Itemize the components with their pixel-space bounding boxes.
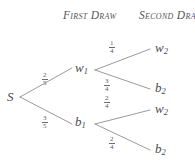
node-w2-lower: w2 — [155, 102, 168, 117]
edge-label-s-to-b1: 3 5 — [42, 115, 48, 131]
edge-label-b1-to-w2: 2 4 — [104, 95, 110, 111]
node-b2-bottom-subscript: 2 — [162, 147, 166, 157]
node-w1-subscript: 1 — [84, 66, 88, 76]
edge-label-w1-to-b2: 3 4 — [104, 78, 110, 94]
node-w2-lower-subscript: 2 — [164, 107, 168, 117]
probability-tree-diagram: First Draw Second Draw S w1 b1 w2 b2 w2 … — [0, 0, 195, 167]
edge-label-b1-to-b2-numerator: 2 — [109, 136, 115, 143]
node-w1: w1 — [75, 61, 88, 76]
edge-label-b1-to-b2: 2 4 — [109, 136, 115, 152]
node-w1-base: w — [75, 60, 84, 75]
edge-label-w1-to-w2: 1 4 — [109, 40, 115, 56]
node-w2-top-subscript: 2 — [164, 46, 168, 56]
branch-b1-to-w2 — [95, 110, 150, 124]
edge-label-w1-to-w2-numerator: 1 — [109, 40, 115, 47]
edge-label-s-to-w1: 2 5 — [42, 72, 48, 88]
node-b2-bottom: b2 — [155, 142, 166, 157]
node-w2-lower-base: w — [155, 101, 164, 116]
edge-label-w1-to-b2-numerator: 3 — [104, 78, 110, 85]
branch-b1-to-b2 — [95, 124, 150, 150]
edge-label-b1-to-b2-denominator: 4 — [109, 143, 115, 151]
node-b1-subscript: 1 — [82, 120, 86, 130]
edge-label-s-to-w1-numerator: 2 — [42, 72, 48, 79]
edge-label-w1-to-b2-denominator: 4 — [104, 85, 110, 93]
edge-label-b1-to-w2-denominator: 4 — [104, 102, 110, 110]
edge-label-s-to-w1-denominator: 5 — [42, 79, 48, 87]
edge-label-b1-to-w2-numerator: 2 — [104, 95, 110, 102]
column-header-first-draw: First Draw — [63, 8, 116, 22]
node-w2-top: w2 — [155, 41, 168, 56]
node-w2-top-base: w — [155, 40, 164, 55]
edge-label-w1-to-w2-denominator: 4 — [109, 47, 115, 55]
node-root-s: S — [7, 90, 14, 103]
branch-w1-to-w2 — [95, 49, 150, 70]
node-b2-upper: b2 — [155, 81, 166, 96]
node-b2-upper-subscript: 2 — [162, 86, 166, 96]
edge-label-s-to-b1-denominator: 5 — [42, 122, 48, 130]
node-b1: b1 — [75, 115, 86, 130]
column-header-second-draw: Second Draw — [139, 8, 195, 22]
tree-branches — [0, 0, 195, 167]
edge-label-s-to-b1-numerator: 3 — [42, 115, 48, 122]
